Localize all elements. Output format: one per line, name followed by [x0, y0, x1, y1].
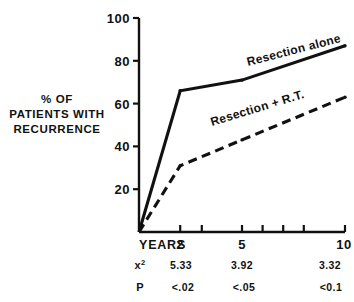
series-label-resection-rt: Resection + R.T. [209, 87, 306, 129]
figure-container: % OF PATIENTS WITH RECURRENCE % OF PATIE… [0, 0, 354, 302]
y-tick-label-40: 40 [115, 139, 130, 154]
y-tick-label-100: 100 [107, 11, 130, 26]
stats-row-chi-square: x2 5.33 3.92 3.32 [134, 258, 341, 271]
data-point-alone-2 [179, 89, 182, 92]
stats-row-label-chi-square: x2 [134, 258, 145, 271]
y-tick-label-80: 80 [115, 54, 130, 69]
y-tick-label-60: 60 [115, 97, 130, 112]
stats-chi-square-year-10: 3.32 [319, 259, 341, 271]
stats-p-value-year-10: <0.1 [320, 281, 342, 293]
x-tick-label-5: 5 [238, 237, 246, 252]
stats-chi-square-year-5: 3.92 [231, 259, 253, 271]
data-point-rt-10 [343, 96, 346, 99]
chi-superscript: 2 [141, 258, 146, 267]
x-tick-label-10: 10 [336, 237, 351, 252]
data-point-alone-5 [240, 78, 243, 81]
stats-p-value-year-2: <.02 [172, 281, 194, 293]
stats-row-p-value: P <.02 <.05 <0.1 [136, 281, 342, 293]
y-axis-tick-labels: 100 80 60 40 20 [107, 11, 130, 197]
stats-p-value-year-5: <.05 [233, 281, 255, 293]
data-point-rt-5 [240, 138, 243, 141]
y-tick-label-20: 20 [115, 182, 130, 197]
data-point-alone-10 [343, 44, 346, 47]
stats-chi-square-year-2: 5.33 [170, 259, 192, 271]
x-tick-label-2: 2 [176, 237, 184, 252]
stats-row-label-p-value: P [136, 281, 144, 293]
data-point-rt-2 [179, 164, 182, 167]
chart-svg: 100 80 60 40 20 YEARS 2 5 10 [0, 0, 354, 302]
x-axis-tick-labels: YEARS 2 5 10 [139, 237, 352, 252]
